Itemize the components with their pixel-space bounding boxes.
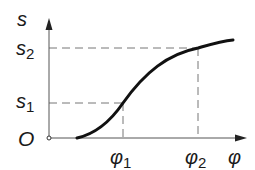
tick-label-phi1: φ1 <box>110 146 131 170</box>
origin-point-icon <box>47 136 51 140</box>
s-phi-graph: s s2 s1 O φ1 φ2 φ <box>0 0 255 170</box>
x-axis-arrow-icon <box>235 135 247 142</box>
tick-label-phi2: φ2 <box>185 146 206 170</box>
y-axis-label: s <box>17 8 27 30</box>
guide-lines <box>49 48 198 138</box>
tick-label-s2: s2 <box>16 37 34 62</box>
axes <box>49 26 238 138</box>
origin-label: O <box>18 127 34 150</box>
y-axis-arrow-icon <box>46 18 53 30</box>
s-phi-curve <box>77 40 233 138</box>
x-axis-label: φ <box>228 146 241 168</box>
tick-label-s1: s1 <box>16 90 34 115</box>
